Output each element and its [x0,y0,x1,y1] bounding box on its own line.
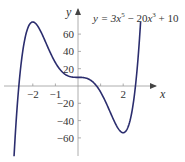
y-tick-label: 40 [63,45,75,57]
y-tick-label: −60 [57,132,75,144]
chart: −2−12 604020−20−40−60 x y y = 3x5 − 20x3… [0,0,185,162]
x-tick-label: −2 [27,88,39,100]
y-tick-label: −40 [57,115,75,127]
y-axis-label: y [65,5,72,19]
equation-label: y = 3x5 − 20x3 + 10 [92,11,179,24]
y-tick-label: −20 [57,97,75,109]
y-tick-label: 60 [63,28,75,40]
x-tick-label: 2 [120,88,126,100]
y-tick-label: 20 [63,63,75,75]
x-axis-label: x [159,87,166,101]
